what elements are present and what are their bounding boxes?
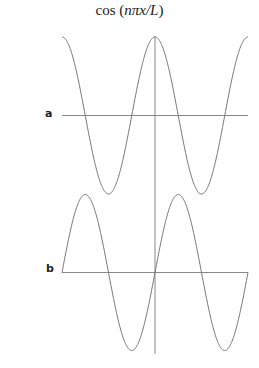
- plot-area: [0, 0, 259, 368]
